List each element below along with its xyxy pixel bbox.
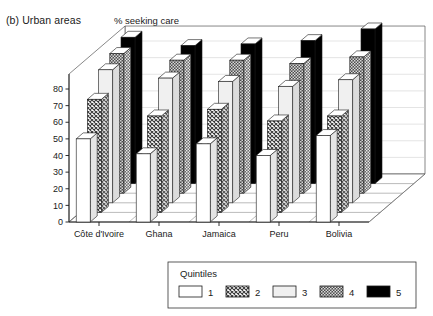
legend-swatch-2[interactable] (226, 286, 249, 297)
legend-swatch-5[interactable] (367, 286, 390, 297)
legend-label-1: 1 (208, 287, 213, 298)
legend-box: Quintiles12345 (0, 0, 433, 316)
legend-swatch-4[interactable] (320, 286, 343, 297)
figure-root: (b) Urban areas % seeking care 010 (0, 0, 433, 316)
legend-swatch-3[interactable] (273, 286, 296, 297)
legend-label-2: 2 (255, 287, 260, 298)
legend-label-4: 4 (349, 287, 354, 298)
legend-title: Quintiles (180, 268, 217, 279)
legend-swatch-1[interactable] (179, 286, 202, 297)
legend-label-5: 5 (396, 287, 401, 298)
legend-label-3: 3 (302, 287, 307, 298)
